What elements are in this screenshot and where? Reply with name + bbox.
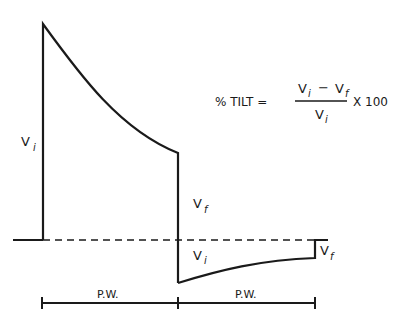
tilt-diagram: P.W. P.W. V i V f V i V f % TILT = V i −… (0, 0, 407, 322)
positive-pulse (43, 24, 178, 283)
formula-den-sub: i (325, 114, 328, 125)
vf-right-label: V (320, 243, 329, 258)
vi-neg-sub: i (204, 255, 207, 266)
formula-num-b: V (335, 81, 344, 96)
vf-mid-sub: f (204, 204, 209, 215)
vi-neg-label: V (193, 248, 202, 263)
vi-left-label: V (21, 134, 30, 149)
formula-multiplier: X 100 (353, 95, 388, 109)
pw-label-left: P.W. (97, 288, 119, 301)
formula-lhs: % TILT = (215, 95, 267, 109)
vi-left-sub: i (33, 142, 36, 153)
vf-right-sub: f (330, 251, 335, 262)
pw-label-right: P.W. (235, 288, 257, 301)
formula-num-b-sub: f (345, 88, 350, 99)
formula-minus: − (318, 80, 329, 95)
formula-num-a-sub: i (308, 88, 311, 99)
formula-den: V (315, 107, 324, 122)
vf-mid-label: V (193, 196, 202, 211)
formula-num-a: V (298, 81, 307, 96)
